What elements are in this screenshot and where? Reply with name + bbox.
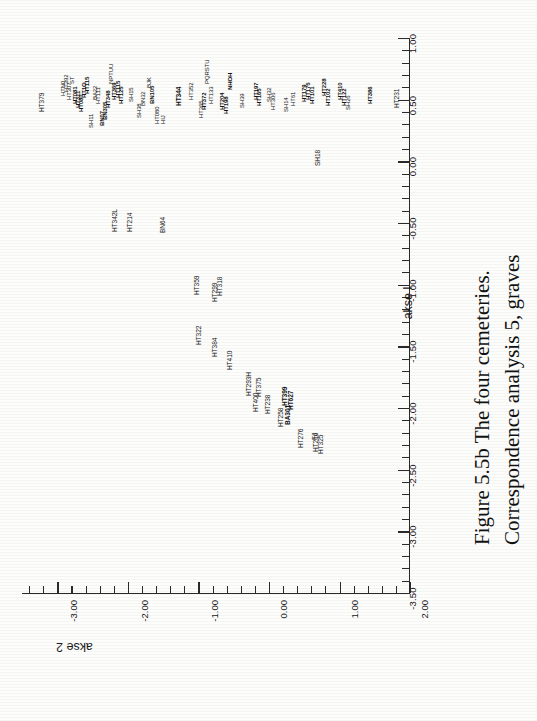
data-point-label: BN64	[160, 217, 167, 233]
data-point-label: HT372	[201, 92, 207, 110]
akse2-minor-tick	[297, 586, 298, 593]
akse1-minor-tick	[402, 433, 409, 434]
akse2-minor-tick	[241, 586, 242, 593]
akse1-minor-tick	[402, 149, 409, 150]
akse1-minor-tick	[402, 457, 409, 458]
akse2-major-tick	[57, 582, 58, 593]
akse2-minor-tick	[114, 586, 115, 593]
akse1-minor-tick	[402, 334, 409, 335]
akse2-tick-label: 2.00	[419, 600, 430, 619]
akse1-tick-label: 0.50	[407, 96, 418, 115]
data-point-label: HT386	[367, 86, 373, 104]
akse2-minor-tick	[368, 586, 369, 593]
akse1-minor-tick	[402, 507, 409, 508]
akse1-minor-tick	[402, 87, 409, 88]
akse1-minor-tick	[402, 198, 409, 199]
akse2-tick-label: -2.00	[139, 600, 150, 622]
akse2-minor-tick	[396, 586, 397, 593]
data-point-label: HT384	[212, 338, 219, 357]
akse2-minor-tick	[86, 586, 87, 593]
akse2-minor-tick	[325, 586, 326, 593]
data-point-label: NHOH	[227, 73, 233, 90]
data-point-label: HT379	[39, 93, 46, 112]
akse2-minor-tick	[382, 586, 383, 593]
akse2-major-tick	[128, 582, 129, 593]
akse1-minor-tick	[402, 137, 409, 138]
data-point-label: HT231	[394, 89, 401, 108]
data-point-label: BN32	[140, 91, 146, 106]
data-point-label: HT352	[188, 82, 194, 100]
data-point-label: HT318	[217, 277, 224, 296]
akse1-minor-tick	[402, 568, 409, 569]
akse2-minor-tick	[255, 586, 256, 593]
correspondence-analysis-scatter-plot: 1.000.500.00-0.50-1.00-1.50-2.00-2.50-3.…	[0, 0, 537, 721]
akse1-minor-tick	[402, 519, 409, 520]
data-point-label: NPTUU	[108, 64, 114, 84]
akse1-minor-tick	[402, 260, 409, 261]
data-point-label: ST	[69, 77, 75, 84]
data-point-label: BN105	[149, 86, 155, 104]
data-point-label: HT133	[208, 86, 214, 104]
akse1-tick-label: -1.50	[407, 340, 418, 363]
akse1-minor-tick	[402, 556, 409, 557]
data-point-label: HT344	[176, 87, 183, 106]
figure-caption-line-1: Figure 5.5b The four cemeteries.	[470, 270, 495, 545]
data-point-label: HT238	[265, 395, 272, 414]
akse1-minor-tick	[402, 272, 409, 273]
akse2-minor-tick	[170, 586, 171, 593]
data-point-label: PQRSTU	[204, 60, 210, 84]
akse1-tick-label: 1.00	[407, 34, 418, 53]
akse2-tick-label: 0.00	[278, 600, 289, 619]
data-point-label: SH11	[88, 114, 94, 128]
data-point-label: SH26	[345, 95, 351, 110]
akse1-minor-tick	[402, 63, 409, 64]
akse1-axis-title: akse l	[401, 287, 415, 320]
akse2-tick-label: -1.00	[209, 600, 220, 622]
data-point-label: HT325	[318, 435, 325, 454]
akse1-minor-tick	[402, 322, 409, 323]
data-point-label: HT115	[84, 77, 90, 94]
data-point-label: FJ	[312, 433, 319, 440]
data-point-label: HT359	[194, 276, 201, 295]
data-point-label: HT293H	[246, 372, 253, 396]
akse2-minor-tick	[156, 586, 157, 593]
akse1-minor-tick	[402, 494, 409, 495]
data-point-label: HT410	[227, 351, 234, 370]
akse2-axis-line	[22, 593, 410, 594]
akse2-axis-title: akse 2	[56, 640, 93, 654]
akse2-minor-tick	[227, 586, 228, 593]
akse2-major-tick	[410, 582, 411, 593]
akse1-tick-label: -2.50	[407, 464, 418, 487]
akse2-minor-tick	[29, 586, 30, 593]
akse2-minor-tick	[71, 586, 72, 593]
data-point-label: SH39	[239, 93, 245, 108]
akse2-minor-tick	[43, 586, 44, 593]
data-point-label: HT627	[288, 391, 295, 410]
akse2-minor-tick	[311, 586, 312, 593]
akse2-tick-label: 1.00	[349, 600, 360, 619]
akse1-minor-tick	[402, 211, 409, 212]
akse2-minor-tick	[213, 586, 214, 593]
data-point-label: HT102	[325, 88, 331, 106]
akse1-minor-tick	[402, 371, 409, 372]
akse1-minor-tick	[402, 248, 409, 249]
scanned-figure-page: 1.000.500.00-0.50-1.00-1.50-2.00-2.50-3.…	[0, 0, 537, 721]
akse1-tick-label: -2.00	[407, 402, 418, 425]
akse1-minor-tick	[402, 124, 409, 125]
data-point-label: HIJ	[160, 115, 166, 124]
akse2-minor-tick	[100, 586, 101, 593]
data-point-label: HT322	[196, 326, 203, 345]
data-point-label: HT111	[95, 87, 101, 104]
data-point-label: HT214	[127, 213, 134, 232]
akse2-minor-tick	[184, 586, 185, 593]
figure-caption-line-2: Correspondence analysis 5, graves	[500, 255, 525, 545]
akse1-minor-tick	[402, 396, 409, 397]
akse1-minor-tick	[402, 445, 409, 446]
akse1-minor-tick	[402, 581, 409, 582]
akse1-tick-label: -3.00	[407, 525, 418, 548]
akse2-minor-tick	[142, 586, 143, 593]
data-point-label: HT61	[290, 92, 296, 106]
data-point-label: HT306	[270, 92, 276, 110]
data-point-label: SH18	[315, 150, 322, 166]
data-point-label: HT276	[298, 429, 305, 448]
